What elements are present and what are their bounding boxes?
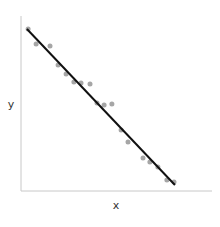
data-point [102, 103, 107, 108]
x-axis-label: x [113, 199, 120, 212]
y-axis-label: y [8, 98, 15, 111]
data-point [88, 82, 93, 87]
data-point [109, 102, 114, 107]
data-point [141, 155, 146, 160]
scatter-chart: x y [0, 0, 220, 227]
data-point [48, 43, 53, 48]
data-point [34, 42, 39, 47]
data-point [126, 140, 131, 145]
regression-line [27, 29, 175, 185]
